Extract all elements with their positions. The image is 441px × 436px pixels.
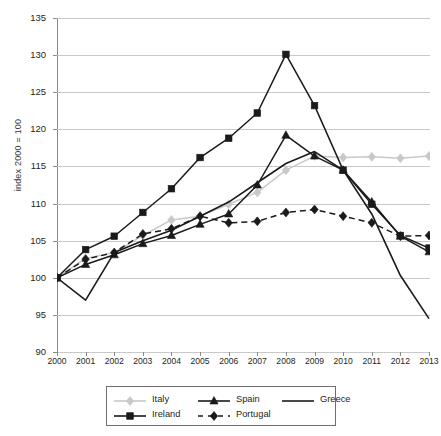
legend-swatch — [113, 408, 147, 420]
data-point — [82, 246, 89, 253]
x-tick-label: 2007 — [242, 356, 272, 366]
legend-swatch — [113, 393, 147, 405]
legend-swatch — [197, 408, 231, 420]
x-tick-label: 2010 — [328, 356, 358, 366]
legend-label: Spain — [236, 394, 260, 404]
data-point — [168, 185, 175, 192]
legend-label: Italy — [152, 394, 169, 404]
legend-item-italy: Italy — [113, 391, 169, 406]
y-tick-label: 110 — [0, 198, 46, 209]
y-tick-mark — [53, 166, 57, 167]
x-tick-label: 2001 — [71, 356, 101, 366]
y-tick-label: 100 — [0, 272, 46, 283]
data-point — [368, 152, 375, 161]
x-tick-label: 2005 — [185, 356, 215, 366]
y-tick-mark — [53, 92, 57, 93]
data-point — [282, 166, 289, 175]
legend-item-spain: Spain — [197, 391, 260, 406]
data-point — [225, 135, 232, 142]
y-tick-label: 95 — [0, 309, 46, 320]
y-tick-label: 130 — [0, 49, 46, 60]
plot-area — [57, 18, 430, 352]
data-point — [283, 51, 290, 58]
y-tick-label: 120 — [0, 123, 46, 134]
data-point — [339, 153, 346, 162]
y-tick-mark — [53, 278, 57, 279]
legend-row: IrelandPortugal — [113, 406, 329, 421]
x-tick-label: 2003 — [128, 356, 158, 366]
x-tick-label: 2008 — [271, 356, 301, 366]
data-point — [140, 209, 147, 216]
x-tick-label: 2013 — [414, 356, 441, 366]
series-portugal — [57, 205, 430, 282]
data-point — [254, 217, 261, 226]
data-point — [426, 245, 430, 252]
data-point — [311, 205, 318, 214]
data-point — [196, 212, 203, 221]
data-point — [397, 154, 404, 163]
x-tick-label: 2012 — [385, 356, 415, 366]
x-tick-label: 2002 — [99, 356, 129, 366]
data-point — [425, 152, 430, 161]
legend-row: ItalySpainGreece — [113, 391, 329, 406]
data-point — [168, 215, 175, 224]
data-point — [254, 188, 261, 197]
y-tick-label: 125 — [0, 86, 46, 97]
data-point — [82, 255, 89, 264]
y-tick-mark — [53, 241, 57, 242]
series-italy — [57, 152, 430, 283]
x-tick-label: 2004 — [156, 356, 186, 366]
x-tick-label: 2006 — [214, 356, 244, 366]
x-tick-label: 2011 — [357, 356, 387, 366]
x-tick-label: 2000 — [42, 356, 72, 366]
legend-swatch — [281, 393, 315, 405]
y-tick-mark — [53, 129, 57, 130]
data-point — [311, 102, 318, 109]
data-point — [225, 218, 232, 227]
legend-item-portugal: Portugal — [197, 406, 271, 421]
y-tick-label: 90 — [0, 346, 46, 357]
legend-swatch — [197, 393, 231, 405]
legend-item-greece: Greece — [281, 391, 351, 406]
y-tick-label: 105 — [0, 235, 46, 246]
y-tick-label: 115 — [0, 160, 46, 171]
legend-label: Portugal — [236, 409, 271, 419]
y-tick-label: 135 — [0, 12, 46, 23]
y-tick-mark — [53, 204, 57, 205]
data-point — [197, 154, 204, 161]
legend-item-ireland: Ireland — [113, 406, 180, 421]
chart-figure: index 2000 = 100 90951001051101151201251… — [0, 0, 441, 436]
series-ireland — [57, 51, 430, 281]
x-tick-label: 2009 — [300, 356, 330, 366]
x-axis-tick-labels: 2000200120022003200420052006200720082009… — [57, 356, 430, 372]
series-canvas — [57, 18, 430, 352]
data-point — [254, 110, 261, 117]
chart-legend: ItalySpainGreece IrelandPortugal — [106, 386, 336, 426]
y-tick-mark — [53, 315, 57, 316]
y-tick-mark — [53, 55, 57, 56]
data-point — [425, 231, 430, 240]
data-point — [340, 167, 347, 174]
data-point — [282, 208, 289, 217]
data-point — [339, 212, 346, 221]
series-line — [57, 54, 429, 277]
y-tick-mark — [53, 18, 57, 19]
data-point — [368, 201, 375, 208]
data-point — [282, 131, 290, 139]
legend-label: Greece — [320, 394, 351, 404]
gridline — [57, 352, 430, 353]
legend-label: Ireland — [152, 409, 180, 419]
data-point — [111, 233, 118, 240]
